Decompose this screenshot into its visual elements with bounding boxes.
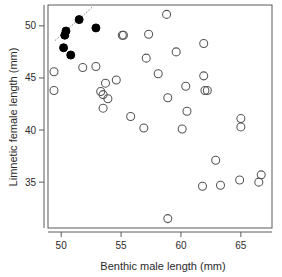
data-point	[67, 51, 75, 59]
data-point	[50, 68, 58, 76]
data-point	[112, 76, 120, 84]
data-point	[212, 156, 220, 164]
data-point	[140, 124, 148, 132]
data-point	[199, 182, 207, 190]
data-point	[237, 115, 245, 123]
y-axis: 35404550	[25, 5, 44, 228]
data-point	[154, 70, 162, 78]
data-point	[92, 24, 100, 32]
scatter-plot-canvas: 50556065 35404550 Benthic male length (m…	[0, 0, 282, 277]
data-point	[62, 27, 70, 35]
data-point	[237, 123, 245, 131]
data-point	[163, 10, 171, 18]
x-tick-label: 60	[175, 240, 187, 251]
data-point	[60, 44, 68, 52]
data-point	[99, 104, 107, 112]
data-point	[200, 72, 208, 80]
data-point	[127, 113, 135, 121]
data-point	[178, 125, 186, 133]
y-tick-label: 50	[25, 20, 37, 31]
y-tick-label: 35	[25, 177, 37, 188]
data-point	[164, 94, 172, 102]
data-point	[50, 86, 58, 94]
data-point	[164, 215, 172, 223]
series-open	[50, 10, 265, 222]
y-tick-label: 45	[25, 72, 37, 83]
data-point	[75, 16, 83, 24]
data-point	[257, 171, 265, 179]
y-tick-label: 40	[25, 125, 37, 136]
data-point	[104, 95, 112, 103]
data-point	[101, 79, 109, 87]
x-tick-label: 65	[235, 240, 247, 251]
data-point	[183, 107, 191, 115]
plot-frame	[48, 5, 272, 228]
data-point	[200, 40, 208, 48]
data-points-layer	[50, 10, 265, 222]
data-point	[216, 181, 224, 189]
x-tick-label: 50	[56, 240, 68, 251]
x-tick-label: 55	[116, 240, 128, 251]
data-point	[79, 64, 87, 72]
y-axis-title: Limnetic female length (mm)	[7, 48, 19, 187]
scatter-plot-figure: 50556065 35404550 Benthic male length (m…	[0, 0, 282, 277]
data-point	[172, 48, 180, 56]
data-point	[145, 30, 153, 38]
data-point	[236, 176, 244, 184]
data-point	[142, 54, 150, 62]
x-axis-title: Benthic male length (mm)	[100, 260, 225, 272]
x-axis: 50556065	[48, 232, 272, 251]
series-filled	[60, 16, 100, 59]
data-point	[92, 62, 100, 70]
data-point	[182, 82, 190, 90]
